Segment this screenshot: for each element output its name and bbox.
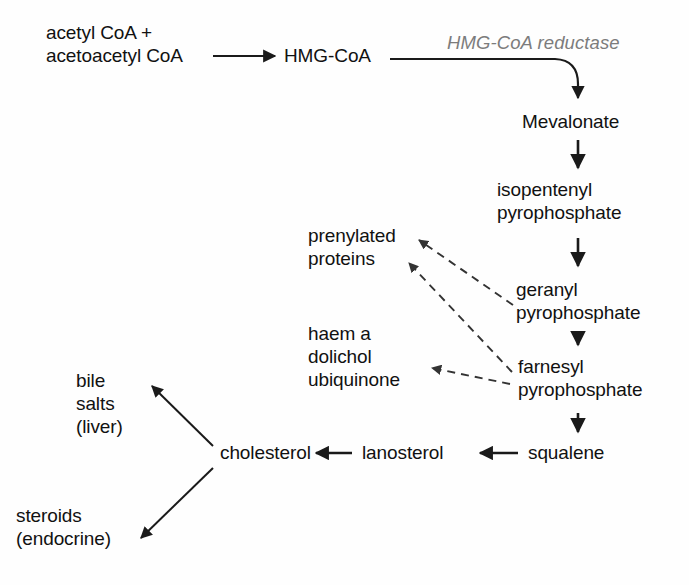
pathway-diagram: acetyl CoA + acetoacetyl CoA HMG-CoA HMG… <box>0 0 689 585</box>
node-hmg-coa: HMG-CoA <box>284 44 371 67</box>
edge-gpp-to-prenylated <box>419 240 513 305</box>
edge-cholesterol-to-steroids <box>141 468 213 538</box>
node-geranyl-pyrophosphate: geranyl pyrophosphate <box>516 278 640 324</box>
node-mevalonate: Mevalonate <box>522 110 619 133</box>
node-isopentenyl-pyrophosphate: isopentenyl pyrophosphate <box>497 178 621 224</box>
node-farnesyl-pyrophosphate: farnesyl pyrophosphate <box>518 355 642 401</box>
node-squalene: squalene <box>528 441 604 464</box>
edge-cholesterol-to-bile-salts <box>152 386 213 446</box>
edge-hmgcoa-to-mevalonate <box>390 59 578 98</box>
node-lanosterol: lanosterol <box>362 441 443 464</box>
node-steroids-endocrine: steroids (endocrine) <box>16 504 111 550</box>
enzyme-label-hmg-coa-reductase: HMG-CoA reductase <box>447 32 620 54</box>
node-acetyl-coa-acetoacetyl-coa: acetyl CoA + acetoacetyl CoA <box>46 21 183 67</box>
node-bile-salts-liver: bile salts (liver) <box>76 369 123 438</box>
node-cholesterol: cholesterol <box>220 441 311 464</box>
edge-fpp-to-prenylated <box>409 263 512 372</box>
edge-fpp-to-haem <box>432 368 510 384</box>
node-prenylated-proteins: prenylated proteins <box>308 224 396 270</box>
node-haem-dolichol-ubiquinone: haem a dolichol ubiquinone <box>308 322 400 391</box>
